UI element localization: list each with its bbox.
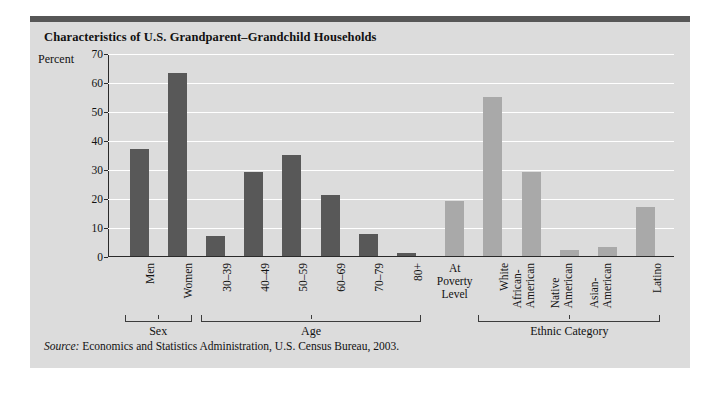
y-tick-label: 10 — [92, 222, 104, 234]
x-tick-label: AtPovertyLevel — [425, 262, 485, 301]
bar — [560, 250, 579, 256]
source-prefix: Source: — [44, 340, 79, 352]
bar — [636, 207, 655, 256]
x-tick-label: Latino — [651, 263, 663, 293]
x-tick-label: 50–59 — [297, 263, 309, 292]
x-tick-label: 70–79 — [373, 263, 385, 292]
source-text: Economics and Statistics Administration,… — [79, 340, 399, 352]
x-tick-label: 30–39 — [221, 263, 233, 292]
y-tick-mark — [104, 112, 108, 113]
x-tick-label: African-American — [511, 263, 537, 308]
bar — [359, 234, 378, 256]
bar — [206, 236, 225, 256]
group-label: Ethnic Category — [478, 324, 660, 339]
bracket-line — [201, 315, 421, 322]
gridline — [108, 141, 674, 142]
chart-title: Characteristics of U.S. Grandparent–Gran… — [44, 30, 377, 45]
x-axis-line — [108, 256, 674, 258]
gridline — [108, 228, 674, 229]
bar — [598, 247, 617, 256]
y-tick-label: 60 — [92, 77, 104, 89]
group-label: Sex — [125, 324, 192, 339]
bracket-line — [125, 315, 192, 322]
bar — [483, 97, 502, 257]
bracket-line — [478, 315, 660, 322]
y-tick-mark — [104, 83, 108, 84]
top-rule-divider — [30, 16, 690, 22]
group-label: Age — [201, 324, 421, 339]
bar — [397, 253, 416, 256]
y-tick-mark — [104, 228, 108, 229]
y-tick-mark — [104, 170, 108, 171]
bar — [244, 172, 263, 256]
bracket-tick — [569, 315, 570, 319]
bar — [282, 155, 301, 257]
bar — [130, 149, 149, 256]
gridline — [108, 199, 674, 200]
bar — [168, 73, 187, 256]
y-axis-line — [108, 54, 109, 257]
x-tick-label: 80+ — [412, 263, 424, 281]
y-tick-label: 70 — [92, 48, 104, 60]
source-note: Source: Economics and Statistics Adminis… — [44, 340, 399, 352]
y-tick-mark — [104, 54, 108, 55]
x-tick-label: 40–49 — [259, 263, 271, 292]
y-tick-label: 40 — [92, 135, 104, 147]
y-tick-label: 0 — [97, 251, 103, 263]
figure-panel: Characteristics of U.S. Grandparent–Gran… — [30, 16, 690, 368]
gridline — [108, 83, 674, 84]
x-tick-label: Men — [144, 263, 156, 284]
x-tick-label: White — [498, 263, 510, 291]
x-tick-label: Asian-American — [588, 263, 614, 308]
x-tick-label: NativeAmerican — [550, 263, 576, 308]
y-axis-title: Percent — [38, 52, 74, 67]
x-tick-label: 60–69 — [335, 263, 347, 292]
bracket-tick — [158, 315, 159, 319]
gridline — [108, 54, 674, 55]
y-tick-mark — [104, 199, 108, 200]
y-tick-label: 50 — [92, 106, 104, 118]
y-tick-mark — [104, 257, 108, 258]
bar — [321, 195, 340, 256]
y-tick-label: 30 — [92, 164, 104, 176]
gridline — [108, 170, 674, 171]
bar — [445, 201, 464, 256]
x-tick-label: Women — [182, 263, 194, 298]
plot-area: 010203040506070 MenWomen30–3940–4950–596… — [108, 54, 674, 257]
y-tick-mark — [104, 141, 108, 142]
bar — [522, 172, 541, 256]
bracket-tick — [311, 315, 312, 319]
gridline — [108, 112, 674, 113]
y-tick-label: 20 — [92, 193, 104, 205]
